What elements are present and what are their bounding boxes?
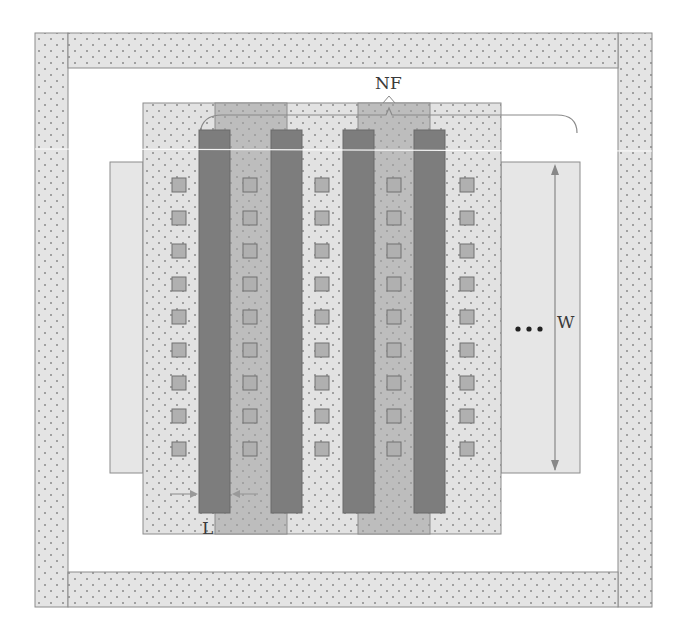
contact: [315, 376, 329, 390]
contact: [243, 310, 257, 324]
contact: [387, 310, 401, 324]
contact: [315, 211, 329, 225]
contact: [315, 442, 329, 456]
gate-finger: [343, 130, 374, 513]
contact: [315, 178, 329, 192]
contact: [387, 244, 401, 258]
contact: [460, 244, 474, 258]
l-label: L: [202, 518, 213, 538]
contact: [387, 442, 401, 456]
contact: [243, 244, 257, 258]
contact: [460, 178, 474, 192]
contact: [460, 277, 474, 291]
contact: [387, 409, 401, 423]
contact: [387, 211, 401, 225]
gate-finger: [199, 130, 230, 513]
contact: [315, 343, 329, 357]
contact: [172, 442, 186, 456]
contact: [387, 376, 401, 390]
contact: [460, 409, 474, 423]
contact: [172, 343, 186, 357]
contact: [460, 310, 474, 324]
contact: [460, 376, 474, 390]
contact: [387, 343, 401, 357]
w-label: W: [557, 312, 575, 332]
contact: [460, 442, 474, 456]
contact: [315, 409, 329, 423]
contact: [387, 277, 401, 291]
contact: [243, 442, 257, 456]
contact: [387, 178, 401, 192]
contact: [243, 211, 257, 225]
gate-finger: [271, 130, 302, 513]
ellipsis-icon: [515, 326, 542, 331]
contact: [172, 409, 186, 423]
contact: [172, 211, 186, 225]
contact: [243, 409, 257, 423]
contact: [172, 376, 186, 390]
mosfet-layout-diagram: NF W L: [0, 0, 682, 640]
contact: [172, 178, 186, 192]
contact: [460, 343, 474, 357]
contact: [460, 211, 474, 225]
contact: [315, 244, 329, 258]
contact: [315, 277, 329, 291]
contact: [172, 244, 186, 258]
gate-finger: [414, 130, 445, 513]
contact: [243, 178, 257, 192]
contact: [172, 277, 186, 291]
contact: [315, 310, 329, 324]
contact: [243, 376, 257, 390]
left-extension-box: [110, 162, 143, 473]
nf-label: NF: [375, 73, 402, 93]
contact: [243, 277, 257, 291]
contact: [172, 310, 186, 324]
contact: [243, 343, 257, 357]
